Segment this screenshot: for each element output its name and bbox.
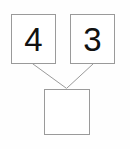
part-box-right-value: 3 (83, 23, 101, 56)
whole-box[interactable] (44, 89, 90, 135)
part-box-left[interactable]: 4 (11, 14, 56, 64)
number-bond-diagram: 4 3 (0, 0, 130, 149)
connector-right-line (67, 64, 93, 88)
part-box-left-value: 4 (24, 23, 42, 56)
part-box-right[interactable]: 3 (70, 14, 115, 64)
connector-left-line (33, 64, 66, 88)
